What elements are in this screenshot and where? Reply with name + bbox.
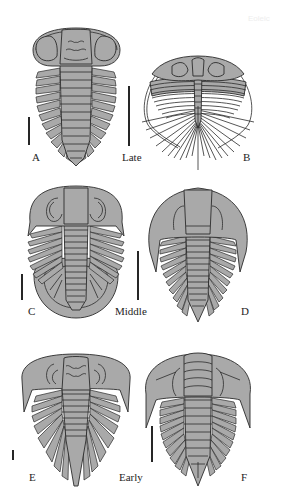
trilobite-b: [142, 56, 254, 170]
trilobite-figure: .f { fill: #a9a9a9; stroke: #2b2b2b; str…: [0, 0, 283, 502]
period-label-early: Early: [119, 472, 143, 483]
trilobite-c: [28, 186, 124, 318]
panel-label-d: D: [241, 306, 249, 317]
scale-bar-f: [151, 426, 153, 462]
period-label-late: Late: [122, 152, 142, 163]
trilobite-d: [149, 188, 247, 322]
scale-bar-d: [137, 251, 139, 300]
panel-label-c: C: [28, 306, 35, 317]
panel-label-a: A: [32, 152, 40, 163]
panel-label-f: F: [241, 472, 247, 483]
scale-bar-e: [12, 450, 14, 460]
scale-bar-b: [128, 86, 130, 146]
trilobite-e: [22, 354, 130, 486]
trilobite-f: [146, 353, 251, 486]
period-label-middle: Middle: [115, 306, 147, 317]
scale-bar-c: [21, 274, 23, 300]
panel-label-b: B: [243, 152, 250, 163]
scale-bar-a: [28, 117, 30, 145]
panel-label-e: E: [29, 472, 36, 483]
trilobite-a: [33, 28, 120, 166]
